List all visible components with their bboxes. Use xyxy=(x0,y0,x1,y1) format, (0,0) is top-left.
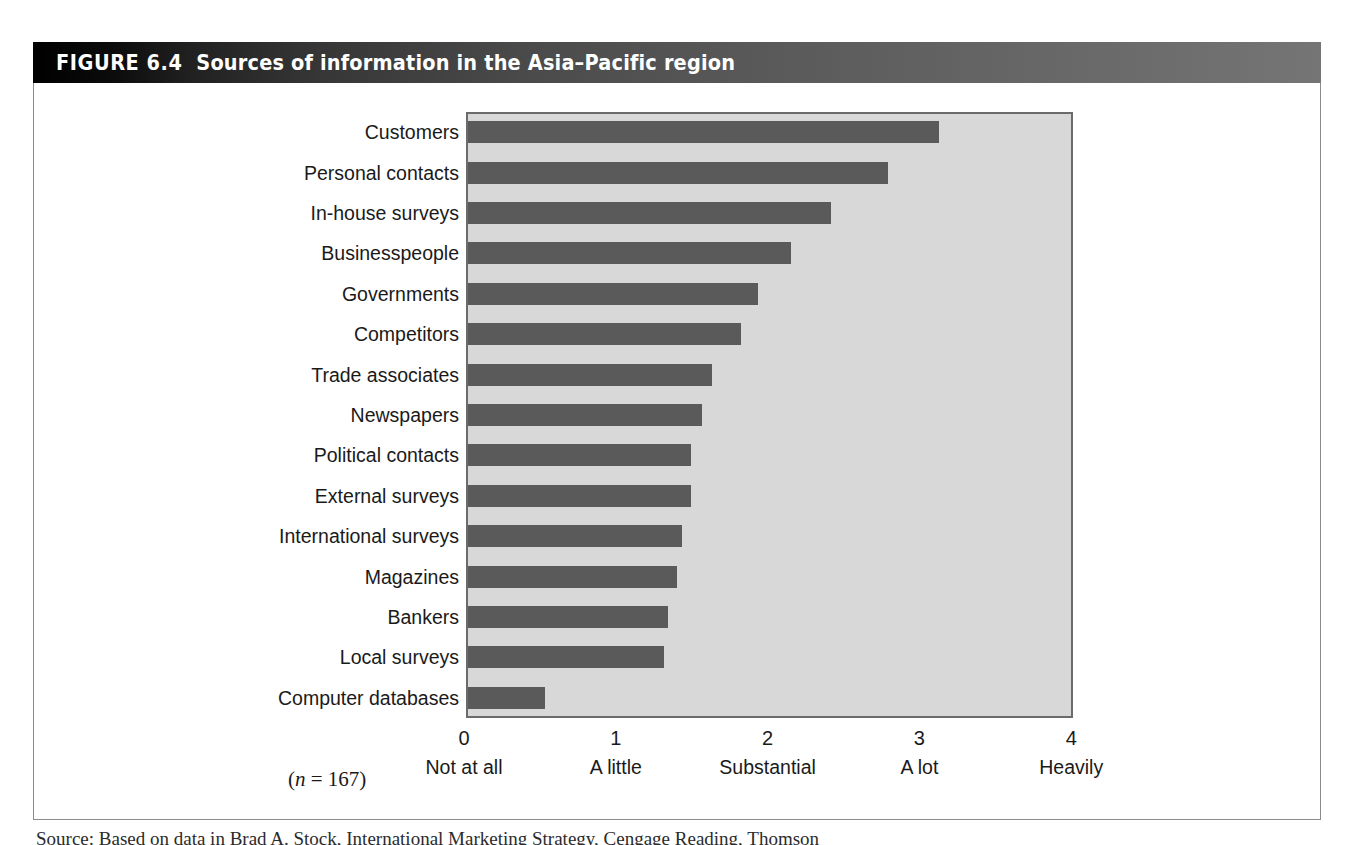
category-label: Political contacts xyxy=(314,444,459,467)
bar-track xyxy=(468,687,545,709)
bar[interactable] xyxy=(468,283,758,305)
bar-row[interactable]: External surveys xyxy=(0,476,1347,516)
bar-track xyxy=(468,283,758,305)
bar-row[interactable]: Competitors xyxy=(0,314,1347,354)
category-label: Trade associates xyxy=(311,363,459,386)
x-axis-tick-value: 1 xyxy=(590,727,642,750)
bar[interactable] xyxy=(468,404,702,426)
bar-track xyxy=(468,646,664,668)
x-axis-tick-value: 0 xyxy=(426,727,503,750)
category-label: Competitors xyxy=(354,323,459,346)
bar[interactable] xyxy=(468,444,691,466)
x-axis-tick-value: 3 xyxy=(900,727,938,750)
x-axis-tick-label: Not at all xyxy=(426,756,503,779)
bar-track xyxy=(468,485,691,507)
category-label: Businesspeople xyxy=(321,242,459,265)
note-value: = 167) xyxy=(306,767,367,791)
bar-row[interactable]: Magazines xyxy=(0,556,1347,596)
bar-track xyxy=(468,202,831,224)
bar-row[interactable]: Personal contacts xyxy=(0,152,1347,192)
x-axis-tick: 3A lot xyxy=(900,718,938,779)
bar-track xyxy=(468,444,691,466)
bar-row[interactable]: Computer databases xyxy=(0,678,1347,718)
bar-track xyxy=(468,242,791,264)
bar-track xyxy=(468,606,668,628)
bar[interactable] xyxy=(468,525,682,547)
source-line: Source: Based on data in Brad A. Stock, … xyxy=(36,828,1321,845)
bar[interactable] xyxy=(468,323,741,345)
x-axis-tick: 2Substantial xyxy=(719,718,815,779)
sample-size-note: (n = 167) xyxy=(288,767,366,792)
figure-title-band: FIGURE 6.4 Sources of information in the… xyxy=(33,42,1321,83)
x-axis-tick-value: 2 xyxy=(719,727,815,750)
bar-track xyxy=(468,121,939,143)
bar-row[interactable]: Newspapers xyxy=(0,395,1347,435)
x-axis-tick-label: Heavily xyxy=(1039,756,1103,779)
x-axis-tick: 1A little xyxy=(590,718,642,779)
bar[interactable] xyxy=(468,646,664,668)
figure-number: FIGURE 6.4 xyxy=(56,51,182,75)
bar-track xyxy=(468,162,888,184)
category-label: Bankers xyxy=(387,605,459,628)
bar-row[interactable]: Local surveys xyxy=(0,637,1347,677)
category-label: Governments xyxy=(342,282,459,305)
category-label: International surveys xyxy=(279,525,459,548)
bar[interactable] xyxy=(468,364,712,386)
category-label: Magazines xyxy=(365,565,459,588)
bar[interactable] xyxy=(468,121,939,143)
category-label: External surveys xyxy=(315,484,459,507)
bar[interactable] xyxy=(468,202,831,224)
bar-track xyxy=(468,364,712,386)
bar-row[interactable]: International surveys xyxy=(0,516,1347,556)
bar-row[interactable]: Governments xyxy=(0,274,1347,314)
bar-track xyxy=(468,404,702,426)
category-label: Customers xyxy=(365,121,459,144)
x-axis-tick: 4Heavily xyxy=(1039,718,1103,779)
x-axis-tick: 0Not at all xyxy=(426,718,503,779)
bar-row[interactable]: Trade associates xyxy=(0,354,1347,394)
x-axis-tick-label: Substantial xyxy=(719,756,815,779)
category-label: Computer databases xyxy=(278,686,459,709)
bar[interactable] xyxy=(468,687,545,709)
bar[interactable] xyxy=(468,162,888,184)
bar-row[interactable]: Businesspeople xyxy=(0,233,1347,273)
bar-track xyxy=(468,566,677,588)
x-axis: 0Not at all1A little2Substantial3A lot4H… xyxy=(466,718,1073,788)
bar-row[interactable]: Customers xyxy=(0,112,1347,152)
x-axis-tick-label: A little xyxy=(590,756,642,779)
bar-row[interactable]: Bankers xyxy=(0,597,1347,637)
category-label: In-house surveys xyxy=(311,201,460,224)
x-axis-tick-value: 4 xyxy=(1039,727,1103,750)
bar-track xyxy=(468,323,741,345)
figure-title: FIGURE 6.4 Sources of information in the… xyxy=(33,51,735,75)
category-label: Newspapers xyxy=(351,403,459,426)
category-label: Personal contacts xyxy=(304,161,459,184)
figure-title-label: Sources of information in the Asia–Pacif… xyxy=(196,51,735,75)
bar[interactable] xyxy=(468,242,791,264)
category-label: Local surveys xyxy=(340,646,459,669)
note-open-paren: ( xyxy=(288,767,295,791)
bar[interactable] xyxy=(468,485,691,507)
bar[interactable] xyxy=(468,566,677,588)
note-n-symbol: n xyxy=(295,767,306,791)
bar-row[interactable]: Political contacts xyxy=(0,435,1347,475)
x-axis-tick-label: A lot xyxy=(900,756,938,779)
bar-row[interactable]: In-house surveys xyxy=(0,193,1347,233)
bar-track xyxy=(468,525,682,547)
bar[interactable] xyxy=(468,606,668,628)
